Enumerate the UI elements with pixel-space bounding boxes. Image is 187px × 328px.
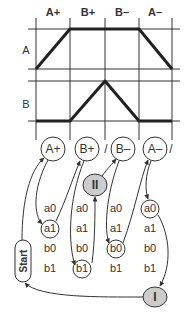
svg-text:b0: b0 bbox=[110, 242, 122, 254]
svg-text:a0: a0 bbox=[76, 202, 88, 214]
svg-text:b1: b1 bbox=[44, 262, 56, 274]
svg-text:a0: a0 bbox=[144, 202, 156, 214]
svg-text:A+: A+ bbox=[45, 142, 60, 156]
svg-text:Start: Start bbox=[18, 249, 29, 272]
svg-text:II: II bbox=[92, 178, 99, 192]
row-label-a: A bbox=[22, 44, 30, 56]
column-header-b-plus: B+ bbox=[81, 6, 95, 18]
svg-text:a0: a0 bbox=[110, 202, 122, 214]
separator-2: / bbox=[169, 142, 173, 156]
svg-text:b1: b1 bbox=[76, 262, 88, 274]
svg-text:B–: B– bbox=[116, 142, 131, 156]
svg-text:b0: b0 bbox=[76, 242, 88, 254]
svg-text:b0: b0 bbox=[144, 242, 156, 254]
svg-text:B+: B+ bbox=[79, 142, 94, 156]
svg-text:a1: a1 bbox=[110, 222, 122, 234]
svg-text:a1: a1 bbox=[44, 222, 56, 234]
svg-text:b0: b0 bbox=[44, 242, 56, 254]
signal-column-1: a0 a1 b0 b1 bbox=[41, 202, 59, 274]
group-node-i: I bbox=[143, 287, 167, 307]
signal-column-3: a0 a1 b0 b1 bbox=[107, 202, 125, 274]
step-node-b-minus: B– bbox=[111, 137, 135, 161]
svg-text:a1: a1 bbox=[144, 222, 156, 234]
separator-1: / bbox=[104, 142, 108, 156]
signal-column-2: a0 a1 b0 b1 bbox=[73, 202, 91, 278]
svg-text:I: I bbox=[153, 290, 156, 304]
step-node-a-minus: A– bbox=[143, 137, 167, 161]
svg-text:b1: b1 bbox=[110, 262, 122, 274]
column-header-b-minus: B– bbox=[115, 6, 129, 18]
column-header-a-plus: A+ bbox=[46, 6, 60, 18]
start-node: Start bbox=[15, 240, 31, 282]
svg-text:a0: a0 bbox=[44, 202, 56, 214]
svg-text:b1: b1 bbox=[144, 262, 156, 274]
svg-text:A–: A– bbox=[148, 142, 163, 156]
step-node-b-plus: B+ bbox=[75, 137, 99, 161]
sequence-diagram: A+ B+ B– A– A B A+ B+ / B– A– / II a0 a1… bbox=[0, 0, 187, 328]
group-node-ii: II bbox=[83, 174, 107, 196]
cylinder-a-trace bbox=[36, 29, 172, 69]
signal-column-4: a0 a1 b0 b1 bbox=[141, 200, 159, 274]
row-label-b: B bbox=[22, 98, 29, 110]
cylinder-b-trace bbox=[36, 81, 172, 121]
column-header-a-minus: A– bbox=[148, 6, 162, 18]
step-node-a-plus: A+ bbox=[41, 137, 65, 161]
svg-text:a1: a1 bbox=[76, 222, 88, 234]
